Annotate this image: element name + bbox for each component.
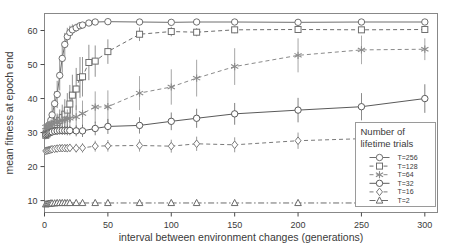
y-tick-label: 60 (27, 26, 37, 36)
marker-circle (54, 91, 60, 97)
marker-circle (62, 41, 68, 47)
marker-circle (105, 18, 111, 24)
legend-title-line2: lifetime trials (361, 138, 414, 149)
x-tick-label: 100 (164, 220, 179, 230)
x-tick-label: 200 (291, 220, 306, 230)
marker-square (194, 29, 200, 35)
marker-square (92, 58, 98, 64)
marker-circle (231, 19, 237, 25)
marker-circle (105, 123, 111, 129)
marker-circle (136, 122, 142, 128)
y-tick-label: 10 (27, 196, 37, 206)
marker-circle (168, 19, 174, 25)
marker-circle (73, 128, 79, 134)
marker-circle (193, 115, 199, 121)
x-tick-label: 300 (417, 220, 432, 230)
marker-circle (422, 19, 428, 25)
marker-square (86, 59, 92, 65)
marker-square (105, 49, 111, 55)
marker-circle (136, 19, 142, 25)
legend: Number oflifetime trialsT=256T=128T=64T=… (356, 123, 436, 207)
marker-circle (358, 104, 364, 110)
marker-circle (376, 154, 382, 160)
legend-label: T=256 (398, 154, 418, 161)
y-tick-label: 30 (27, 128, 37, 138)
marker-circle (168, 118, 174, 124)
marker-circle (57, 72, 63, 78)
marker-circle (67, 127, 73, 133)
marker-circle (86, 20, 92, 26)
legend-label: T=128 (398, 163, 418, 170)
y-tick-label: 50 (27, 60, 37, 70)
marker-square (67, 101, 73, 107)
marker-square (232, 27, 238, 33)
legend-title-line1: Number of (361, 126, 406, 137)
marker-circle (295, 19, 301, 25)
marker-circle (295, 107, 301, 113)
x-axis-title: interval between environment changes (ge… (119, 231, 364, 243)
legend-label: T=64 (398, 171, 414, 178)
legend-label: T=2 (398, 197, 410, 204)
legend-label: T=16 (398, 188, 414, 195)
x-tick-label: 250 (354, 220, 369, 230)
chart-figure: 050100150200250300102030405060interval b… (0, 0, 453, 247)
y-tick-label: 40 (27, 94, 37, 104)
marker-circle (376, 180, 382, 186)
y-axis-title: mean fitness at epoch end (3, 51, 15, 174)
marker-circle (193, 19, 199, 25)
chart-canvas: 050100150200250300102030405060interval b… (0, 0, 453, 247)
marker-circle (51, 100, 57, 106)
marker-circle (92, 19, 98, 25)
marker-square (358, 27, 364, 33)
marker-circle (92, 125, 98, 131)
marker-square (69, 92, 75, 98)
marker-circle (231, 111, 237, 117)
marker-circle (422, 95, 428, 101)
marker-circle (358, 19, 364, 25)
marker-square (168, 29, 174, 35)
marker-circle (79, 22, 85, 28)
marker-square (422, 26, 428, 32)
marker-square (137, 31, 143, 37)
marker-square (73, 86, 79, 92)
marker-square (377, 163, 383, 169)
marker-square (80, 74, 86, 80)
legend-label: T=32 (398, 180, 414, 187)
y-tick-label: 20 (27, 162, 37, 172)
marker-circle (79, 128, 85, 134)
marker-circle (59, 55, 65, 61)
x-tick-label: 150 (227, 220, 242, 230)
marker-square (295, 26, 301, 32)
x-tick-label: 0 (42, 220, 47, 230)
x-tick-label: 50 (103, 220, 113, 230)
